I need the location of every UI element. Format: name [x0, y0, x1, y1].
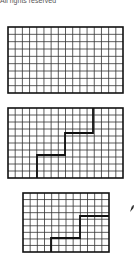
arrow-pointer-icon — [130, 198, 135, 216]
grid-staircase-2 — [0, 0, 135, 253]
